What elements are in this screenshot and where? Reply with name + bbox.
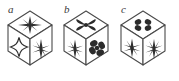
cube-a-label: a: [8, 4, 14, 15]
cube-c: [117, 0, 177, 81]
cube-c-label: c: [121, 4, 126, 15]
cube-b-label: b: [64, 4, 70, 15]
figure-canvas: a: [0, 0, 179, 81]
